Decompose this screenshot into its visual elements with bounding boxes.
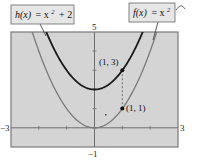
f-label: f(x) = x 2 [133, 6, 171, 19]
y-min-label: −1 [88, 149, 98, 159]
point-label-1-3: (1, 3) [99, 57, 119, 67]
y-max-label: 5 [92, 22, 97, 32]
point-label-1-1: (1, 1) [126, 103, 146, 113]
stray-mark [105, 114, 107, 116]
x-min-label: −3 [0, 123, 10, 133]
decorative-curl [176, 6, 185, 10]
x-max-label: 3 [180, 123, 185, 133]
parabola-chart: 5 −1 −3 3 (1, 3) (1, 1) h(x) = x 2 + 2 f… [0, 0, 209, 162]
point-1-3 [120, 68, 124, 72]
point-1-1 [120, 107, 124, 111]
